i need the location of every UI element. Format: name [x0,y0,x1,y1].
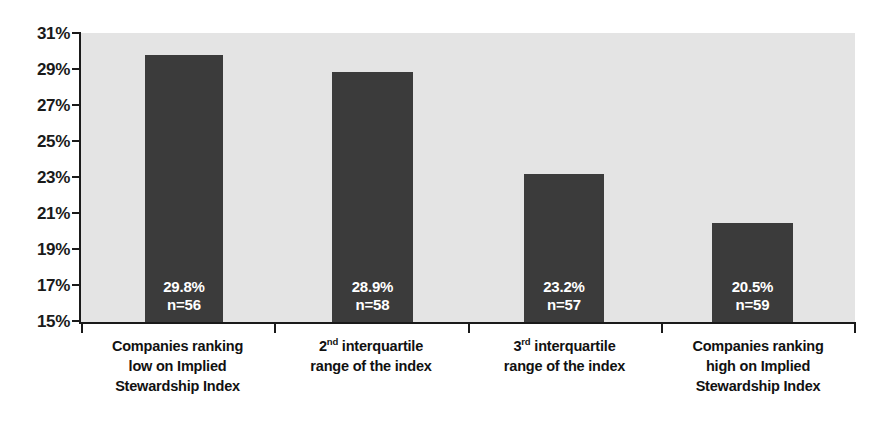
x-category-label: 2nd interquartile range of the index [274,336,468,376]
y-tick-label: 23% [14,169,70,186]
x-category-label-line: Stewardship Index [661,376,855,396]
y-tick-label: 31% [14,25,70,42]
bar-value-label: 28.9% n=58 [332,278,413,314]
bar[interactable]: 20.5% n=59 [712,223,793,322]
y-tick-label: 17% [14,277,70,294]
bar-count-text: n=59 [712,296,793,314]
y-tick-label: 29% [14,61,70,78]
y-tick-label: 21% [14,205,70,222]
y-tick-label: 27% [14,97,70,114]
ordinal-rest: interquartile [338,338,423,354]
bar-percent-text: 28.9% [332,278,413,296]
bar[interactable]: 23.2% n=57 [524,174,604,322]
plot-area: 29.8% n=56 28.9% n=58 23.2% n=57 20.5% n… [81,33,855,322]
x-tick-mark [854,324,856,333]
x-category-label-line: Stewardship Index [81,376,274,396]
x-category-label-line: range of the index [468,356,661,376]
bar-count-text: n=57 [524,296,604,314]
bar[interactable]: 29.8% n=56 [145,55,223,322]
x-category-label: 3rd interquartile range of the index [468,336,661,376]
ordinal-number: 2 [319,338,327,354]
y-tick-label: 25% [14,133,70,150]
x-category-label-line: high on Implied [661,356,855,376]
x-category-label: Companies ranking low on Implied Steward… [81,336,274,396]
x-tick-mark [81,324,83,333]
x-axis-category-labels: Companies ranking low on Implied Steward… [81,336,855,422]
x-category-label-line: 2nd interquartile [274,336,468,356]
y-axis-labels: 31% 29% 27% 25% 23% 21% 19% 17% 15% [8,0,70,424]
bar-value-label: 23.2% n=57 [524,278,604,314]
x-category-label-line: low on Implied [81,356,274,376]
bar-percent-text: 20.5% [712,278,793,296]
bar-chart: 31% 29% 27% 25% 23% 21% 19% 17% 15% 29.8… [0,0,879,424]
ordinal-rest: interquartile [530,338,615,354]
x-tick-mark [661,324,663,333]
bar-value-label: 29.8% n=56 [145,278,223,314]
x-category-label-line: Companies ranking [661,336,855,356]
bar-value-label: 20.5% n=59 [712,278,793,314]
bar-count-text: n=58 [332,296,413,314]
x-category-label-line: Companies ranking [81,336,274,356]
ordinal-suffix: nd [327,336,338,347]
x-category-label: Companies ranking high on Implied Stewar… [661,336,855,396]
x-tick-mark [468,324,470,333]
bar-percent-text: 23.2% [524,278,604,296]
bar-count-text: n=56 [145,296,223,314]
y-tick-label: 15% [14,313,70,330]
x-category-label-line: 3rd interquartile [468,336,661,356]
bar-percent-text: 29.8% [145,278,223,296]
x-category-label-line: range of the index [274,356,468,376]
x-tick-mark [274,324,276,333]
bar[interactable]: 28.9% n=58 [332,72,413,322]
y-tick-label: 19% [14,241,70,258]
